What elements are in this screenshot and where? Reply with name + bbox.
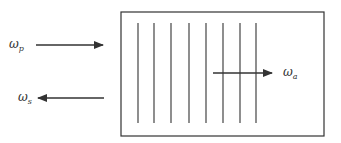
acoustic-label-sub: a bbox=[293, 72, 298, 81]
stokes-label-base: ω bbox=[18, 90, 28, 104]
pump-label: ωp bbox=[9, 38, 24, 53]
acoustic-label: ωa bbox=[283, 66, 298, 81]
pump-label-base: ω bbox=[9, 37, 19, 51]
acoustic-label-base: ω bbox=[283, 65, 293, 79]
stokes-label: ωs bbox=[18, 91, 32, 106]
pump-label-sub: p bbox=[19, 44, 24, 53]
stokes-label-sub: s bbox=[28, 97, 32, 106]
